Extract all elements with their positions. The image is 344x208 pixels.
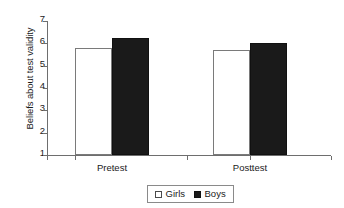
y-tick-mark: [43, 88, 47, 89]
y-tick-label: 2: [40, 126, 45, 136]
bar-chart: Beliefs about test validity 7654321 Pret…: [0, 0, 344, 208]
y-tick-label: 3: [40, 103, 45, 113]
y-tick-mark: [43, 43, 47, 44]
y-tick-label: 1: [40, 148, 45, 158]
y-tick-label: 4: [40, 81, 45, 91]
x-tick-mark: [250, 156, 251, 160]
legend-entry-girls: Girls: [155, 189, 185, 199]
x-category-label-posttest: Posttest: [210, 162, 290, 173]
x-tick-mark: [331, 156, 332, 160]
bar-boys-pretest: [112, 38, 149, 155]
legend-swatch-open-square-icon: [155, 191, 162, 198]
chart-legend: Girls Boys: [147, 185, 234, 203]
y-tick-mark: [43, 66, 47, 67]
legend-label-girls: Girls: [166, 189, 186, 199]
y-tick-mark: [43, 21, 47, 22]
y-tick-mark: [43, 133, 47, 134]
x-tick-mark: [187, 156, 188, 160]
bar-boys-posttest: [250, 43, 287, 155]
y-tick-label: 6: [40, 36, 45, 46]
x-tick-mark: [47, 156, 48, 160]
legend-label-boys: Boys: [205, 189, 226, 199]
y-axis-title: Beliefs about test validity: [24, 3, 35, 155]
x-tick-mark: [75, 156, 76, 160]
legend-swatch-filled-square-icon: [194, 191, 201, 198]
y-tick-label: 5: [40, 59, 45, 69]
legend-entry-boys: Boys: [194, 189, 226, 199]
y-tick-label: 7: [40, 14, 45, 24]
y-axis-line: [47, 21, 48, 156]
x-axis-line: [47, 155, 331, 156]
x-category-label-pretest: Pretest: [72, 162, 152, 173]
y-tick-mark: [43, 110, 47, 111]
bar-girls-pretest: [75, 48, 112, 155]
bar-girls-posttest: [213, 50, 250, 155]
